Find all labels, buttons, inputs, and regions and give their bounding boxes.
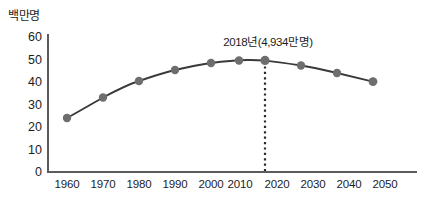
data-point-2010 [235, 56, 243, 64]
x-tick-2020: 2020 [265, 178, 290, 190]
data-point-1980 [135, 77, 143, 85]
x-tick-1980: 1980 [127, 178, 152, 190]
data-point-1960 [63, 114, 71, 122]
population-line-chart: 백만명 0 10 20 30 40 50 60 1960 1970 1980 1… [0, 0, 424, 199]
x-tick-2050: 2050 [373, 178, 398, 190]
data-point-2050 [369, 77, 378, 86]
x-tick-2030: 2030 [301, 178, 326, 190]
data-point-2030 [297, 61, 305, 69]
x-tick-1990: 1990 [163, 178, 188, 190]
population-trend-line [67, 60, 373, 118]
data-point-1990 [171, 66, 179, 74]
peak-annotation-label: 2018년(4,934만명) [223, 33, 312, 49]
data-point-2000 [207, 59, 215, 67]
plot-area [0, 0, 424, 199]
data-point-1970 [99, 93, 107, 101]
x-tick-1970: 1970 [91, 178, 116, 190]
x-tick-1960: 1960 [55, 178, 80, 190]
data-point-2040 [333, 69, 341, 77]
x-tick-2000: 2000 [199, 178, 224, 190]
x-tick-2010: 2010 [228, 178, 253, 190]
x-tick-2040: 2040 [337, 178, 362, 190]
data-point-2020 [260, 56, 269, 65]
